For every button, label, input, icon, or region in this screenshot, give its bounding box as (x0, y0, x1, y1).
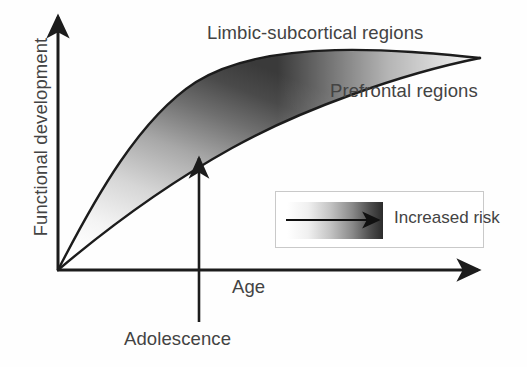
x-axis-label: Age (232, 276, 265, 298)
functional-development-figure: Limbic-subcortical regions Prefrontal re… (0, 0, 527, 367)
right-arrow-icon (284, 211, 388, 229)
curve-label-limbic-subcortical: Limbic-subcortical regions (207, 22, 423, 44)
legend: Increased risk (275, 191, 484, 248)
adolescence-label: Adolescence (124, 328, 231, 350)
curve-label-prefrontal: Prefrontal regions (330, 80, 478, 102)
plot-canvas (0, 0, 527, 367)
legend-item-label: Increased risk (394, 208, 500, 228)
y-axis-label: Functional development (30, 22, 52, 252)
